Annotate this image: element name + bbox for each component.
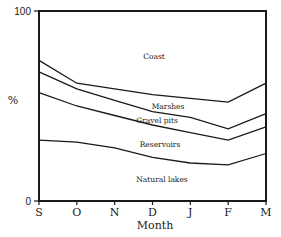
x-tick-label: D <box>148 206 157 219</box>
x-tick-label: M <box>260 206 271 219</box>
region-label: Natural lakes <box>136 175 188 184</box>
region-label: Reservoirs <box>140 140 181 149</box>
region-labels: CoastMarshesGravel pitsReservoirsNatural… <box>136 52 188 184</box>
y-tick-label-0: 0 <box>25 196 31 207</box>
x-tick-label: J <box>187 206 192 219</box>
x-tick-label: S <box>35 206 43 219</box>
boundary-line-3 <box>39 60 266 102</box>
axes <box>34 10 267 202</box>
x-tick-labels: SONDJFM <box>35 206 271 219</box>
y-axis-label: % <box>8 94 18 107</box>
x-tick-label: F <box>224 206 232 219</box>
series-boundary-lines <box>39 60 266 164</box>
x-tick-label: N <box>110 206 120 219</box>
region-label: Coast <box>143 52 165 61</box>
x-tick-label: O <box>72 206 81 219</box>
x-axis-label: Month <box>137 219 173 232</box>
stacked-area-chart: SONDJFM CoastMarshesGravel pitsReservoir… <box>0 0 281 237</box>
region-label: Gravel pits <box>136 116 178 125</box>
y-tick-label-100: 100 <box>14 6 31 17</box>
region-label: Marshes <box>152 102 185 111</box>
